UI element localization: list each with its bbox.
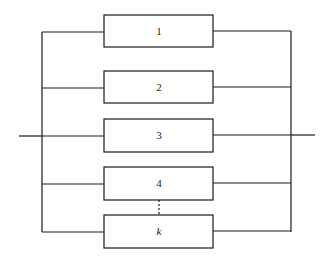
component-3: 3: [42, 119, 291, 152]
component-label: 3: [156, 129, 162, 141]
component-2: 2: [42, 71, 291, 103]
component-label: 2: [156, 81, 162, 93]
component-1: 1: [42, 15, 291, 47]
component-4: 4: [42, 167, 291, 200]
component-label: 1: [156, 25, 162, 37]
component-k: k: [42, 215, 291, 248]
parallel-system-diagram: 1 2 3 4 k: [0, 0, 330, 262]
component-label: 4: [156, 177, 162, 189]
